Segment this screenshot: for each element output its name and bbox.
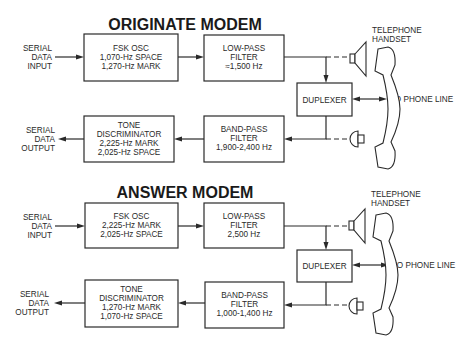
telephone-handset-icon bbox=[375, 47, 400, 169]
svg-text:1,270-Hz MARK: 1,270-Hz MARK bbox=[101, 62, 161, 71]
svg-text:FILTER: FILTER bbox=[230, 53, 258, 62]
originate-band-pass-filter-block: BAND-PASS FILTER 1,900-2,400 Hz bbox=[204, 116, 284, 162]
svg-text:HANDSET: HANDSET bbox=[371, 199, 410, 208]
answer-band-pass-filter-block: BAND-PASS FILTER 1,000-1,400 Hz bbox=[205, 282, 284, 328]
arrow-right-icon bbox=[196, 224, 204, 229]
svg-text:1,070-Hz SPACE: 1,070-Hz SPACE bbox=[100, 53, 163, 62]
svg-text:TONE: TONE bbox=[120, 285, 143, 294]
svg-text:2,500 Hz: 2,500 Hz bbox=[228, 230, 261, 239]
svg-text:LOW-PASS: LOW-PASS bbox=[223, 212, 266, 221]
svg-text:DATA: DATA bbox=[28, 299, 49, 308]
svg-text:OUTPUT: OUTPUT bbox=[15, 308, 49, 317]
originate-handset-label: TELEPHONE HANDSET bbox=[372, 26, 422, 44]
speaker-icon bbox=[350, 42, 366, 76]
svg-text:1,070-Hz SPACE: 1,070-Hz SPACE bbox=[100, 312, 163, 321]
originate-serial-input-label: SERIAL DATA INPUT bbox=[23, 44, 53, 71]
telephone-handset-icon bbox=[373, 213, 398, 335]
svg-text:BAND-PASS: BAND-PASS bbox=[221, 125, 268, 134]
svg-text:DATA: DATA bbox=[34, 135, 55, 144]
svg-text:2,025-Hz SPACE: 2,025-Hz SPACE bbox=[100, 230, 163, 239]
svg-text:SERIAL: SERIAL bbox=[23, 44, 53, 53]
answer-title: ANSWER MODEM bbox=[117, 184, 254, 201]
svg-text:FILTER: FILTER bbox=[231, 300, 259, 309]
answer-fsk-osc-block: FSK OSC 2,225-Hz MARK 2,025-Hz SPACE bbox=[85, 203, 178, 248]
svg-text:SERIAL: SERIAL bbox=[20, 290, 50, 299]
svg-text:2,025-Hz SPACE: 2,025-Hz SPACE bbox=[98, 148, 161, 157]
arrow-right-icon bbox=[196, 55, 204, 60]
svg-text:HANDSET: HANDSET bbox=[372, 35, 411, 44]
arrow-right-icon bbox=[77, 224, 85, 229]
arrow-down-icon bbox=[324, 75, 329, 83]
answer-handset-label: TELEPHONE HANDSET bbox=[371, 190, 421, 208]
svg-text:SERIAL: SERIAL bbox=[26, 126, 56, 135]
originate-low-pass-filter-block: LOW-PASS FILTER ≈1,500 Hz bbox=[204, 35, 284, 81]
answer-tone-discriminator-block: TONE DISCRIMINATOR 1,270-Hz MARK 1,070-H… bbox=[85, 280, 178, 327]
svg-text:≈1,500 Hz: ≈1,500 Hz bbox=[225, 62, 262, 71]
originate-fsk-osc-block: FSK OSC 1,070-Hz SPACE 1,270-Hz MARK bbox=[84, 34, 178, 81]
svg-text:2,225-Hz MARK: 2,225-Hz MARK bbox=[99, 139, 159, 148]
svg-text:1,000-1,400 Hz: 1,000-1,400 Hz bbox=[217, 309, 273, 318]
svg-text:LOW-PASS: LOW-PASS bbox=[223, 44, 266, 53]
svg-text:DATA: DATA bbox=[31, 53, 52, 62]
svg-text:DISCRIMINATOR: DISCRIMINATOR bbox=[99, 294, 164, 303]
svg-text:INPUT: INPUT bbox=[27, 62, 52, 71]
svg-text:FSK OSC: FSK OSC bbox=[114, 212, 150, 221]
svg-text:SERIAL: SERIAL bbox=[23, 213, 53, 222]
answer-serial-input-label: SERIAL DATA INPUT bbox=[23, 213, 53, 240]
answer-low-pass-filter-block: LOW-PASS FILTER 2,500 Hz bbox=[204, 203, 284, 248]
arrow-left-icon bbox=[58, 137, 66, 142]
svg-text:TONE: TONE bbox=[118, 121, 141, 130]
answer-modem-section: ANSWER MODEM SERIAL DATA INPUT FSK OSC 2… bbox=[15, 184, 455, 335]
speaker-icon bbox=[349, 209, 365, 243]
answer-serial-output-label: SERIAL DATA OUTPUT bbox=[15, 290, 49, 317]
arrow-right-icon bbox=[76, 55, 84, 60]
svg-text:BAND-PASS: BAND-PASS bbox=[221, 291, 268, 300]
arrow-left-icon bbox=[352, 97, 360, 102]
svg-text:FILTER: FILTER bbox=[230, 134, 258, 143]
arrow-left-icon bbox=[54, 301, 62, 306]
svg-text:TELEPHONE: TELEPHONE bbox=[372, 26, 422, 35]
svg-text:DUPLEXER: DUPLEXER bbox=[302, 262, 346, 271]
svg-text:DUPLEXER: DUPLEXER bbox=[302, 96, 346, 105]
microphone-icon bbox=[350, 131, 364, 147]
svg-text:1,900-2,400 Hz: 1,900-2,400 Hz bbox=[216, 143, 272, 152]
svg-text:1,270-Hz MARK: 1,270-Hz MARK bbox=[102, 303, 162, 312]
arrow-left-icon bbox=[284, 303, 292, 308]
svg-text:OUTPUT: OUTPUT bbox=[21, 144, 55, 153]
originate-tone-discriminator-block: TONE DISCRIMINATOR 2,225-Hz MARK 2,025-H… bbox=[84, 116, 174, 162]
svg-text:INPUT: INPUT bbox=[27, 231, 52, 240]
svg-text:TELEPHONE: TELEPHONE bbox=[371, 190, 421, 199]
arrow-left-icon bbox=[174, 137, 182, 142]
arrow-right-icon bbox=[379, 97, 387, 102]
originate-duplexer-block: DUPLEXER bbox=[297, 83, 352, 116]
arrow-down-icon bbox=[324, 242, 329, 250]
arrow-left-icon bbox=[352, 263, 360, 268]
svg-text:FSK OSC: FSK OSC bbox=[113, 44, 149, 53]
svg-text:DISCRIMINATOR: DISCRIMINATOR bbox=[97, 130, 162, 139]
originate-serial-output-label: SERIAL DATA OUTPUT bbox=[21, 126, 55, 153]
answer-duplexer-block: DUPLEXER bbox=[297, 250, 352, 282]
answer-phone-line-label: TO PHONE LINE bbox=[392, 261, 456, 270]
svg-text:DATA: DATA bbox=[31, 222, 52, 231]
microphone-icon bbox=[349, 298, 363, 314]
originate-title: ORIGINATE MODEM bbox=[108, 16, 261, 33]
originate-modem-section: ORIGINATE MODEM SERIAL DATA INPUT FSK OS… bbox=[21, 16, 453, 169]
svg-text:FILTER: FILTER bbox=[230, 221, 258, 230]
svg-text:2,225-Hz MARK: 2,225-Hz MARK bbox=[102, 221, 162, 230]
arrow-left-icon bbox=[284, 137, 292, 142]
modem-diagram: ORIGINATE MODEM SERIAL DATA INPUT FSK OS… bbox=[0, 0, 473, 340]
arrow-left-icon bbox=[178, 301, 186, 306]
